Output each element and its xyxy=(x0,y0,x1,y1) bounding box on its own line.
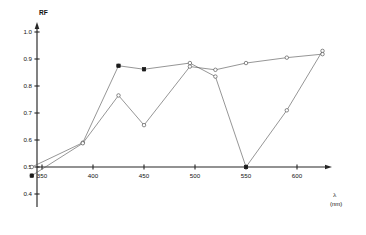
data-point-marker xyxy=(285,56,289,60)
x-tick-label: 350 xyxy=(37,172,48,179)
x-tick-label: 400 xyxy=(88,172,99,179)
x-axis-symbol: λ xyxy=(333,191,337,199)
data-point-marker xyxy=(321,52,325,56)
data-point-marker xyxy=(188,61,192,65)
axes xyxy=(35,22,332,207)
data-point-marker xyxy=(142,123,146,127)
y-tick-labels: 0.40.50.60.70.80.91.0 xyxy=(23,28,32,197)
data-point-marker xyxy=(214,75,218,79)
chart-canvas: 350400450500550600 0.40.50.60.70.80.91.0… xyxy=(0,0,366,235)
data-point-marker-filled xyxy=(142,68,145,71)
y-tick-label: 0.4 xyxy=(23,190,32,197)
y-axis-title: RF xyxy=(39,9,48,16)
data-markers xyxy=(30,49,324,177)
x-tick-labels: 350400450500550600 xyxy=(37,172,303,179)
data-point-marker xyxy=(30,165,34,169)
axis-ticks xyxy=(34,32,297,194)
data-point-marker-filled xyxy=(244,165,247,168)
y-tick-label: 0.8 xyxy=(23,82,32,89)
data-point-marker xyxy=(244,61,248,65)
y-tick-label: 0.6 xyxy=(23,136,32,143)
data-point-marker xyxy=(285,109,289,113)
x-tick-label: 500 xyxy=(190,172,201,179)
x-axis-unit: (nm) xyxy=(330,201,342,207)
data-point-marker-filled xyxy=(117,64,120,67)
y-tick-label: 0.7 xyxy=(23,109,32,116)
data-series xyxy=(32,51,323,176)
data-point-marker-filled xyxy=(30,174,33,177)
data-point-marker xyxy=(117,94,121,98)
data-point-marker xyxy=(188,65,192,69)
data-point-marker xyxy=(214,68,218,72)
series-polyline-series-1 xyxy=(32,51,323,167)
x-tick-label: 450 xyxy=(139,172,150,179)
y-tick-label: 1.0 xyxy=(23,28,32,35)
series-polyline-series-2 xyxy=(32,54,323,176)
y-tick-label: 0.9 xyxy=(23,55,32,62)
x-tick-label: 550 xyxy=(241,172,252,179)
x-tick-label: 600 xyxy=(292,172,303,179)
chart-figure: 350400450500550600 0.40.50.60.70.80.91.0… xyxy=(0,0,366,235)
data-point-marker xyxy=(81,141,85,145)
